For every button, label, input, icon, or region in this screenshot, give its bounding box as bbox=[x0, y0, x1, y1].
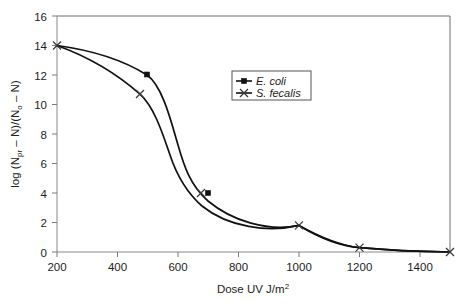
x-tick-label-200: 200 bbox=[47, 261, 66, 273]
legend-label-s-fecalis: S. fecalis bbox=[256, 87, 301, 99]
figure-container: 0 2 4 6 8 10 12 14 16 200 400 600 800 10… bbox=[0, 0, 472, 304]
x-tick-label-400: 400 bbox=[108, 261, 127, 273]
legend-marker-e-coli-dot bbox=[242, 79, 247, 84]
y-tick-label-12: 12 bbox=[34, 70, 47, 82]
y-tick-label-16: 16 bbox=[34, 11, 47, 23]
y-axis-tick-labels: 0 2 4 6 8 10 12 14 16 bbox=[34, 11, 47, 259]
data-point-e-coli-700 bbox=[206, 191, 211, 196]
y-tick-label-14: 14 bbox=[34, 40, 47, 52]
y-axis-ticks bbox=[52, 16, 57, 252]
x-tick-label-1200: 1200 bbox=[347, 261, 373, 273]
y-axis-title: log (Npr – N)/(No – N) bbox=[9, 80, 24, 188]
y-axis-title-log: log (N bbox=[9, 157, 21, 188]
x-tick-label-1400: 1400 bbox=[407, 261, 433, 273]
series-markers-e-coli bbox=[145, 72, 211, 196]
y-axis-title-tail: – N) bbox=[9, 80, 21, 105]
y-tick-label-0: 0 bbox=[41, 247, 47, 259]
x-tick-label-1000: 1000 bbox=[286, 261, 312, 273]
y-tick-label-10: 10 bbox=[34, 99, 47, 111]
x-axis-tick-labels: 200 400 600 800 1000 1200 1400 bbox=[47, 261, 432, 273]
x-axis-title: Dose UV J/m2 bbox=[217, 282, 290, 295]
data-point-s-fecalis-700 bbox=[197, 189, 205, 197]
y-tick-label-4: 4 bbox=[41, 188, 48, 200]
uv-dose-survival-chart: 0 2 4 6 8 10 12 14 16 200 400 600 800 10… bbox=[0, 0, 472, 304]
x-axis-ticks bbox=[57, 252, 420, 257]
legend-label-e-coli: E. coli bbox=[256, 75, 287, 87]
y-tick-label-6: 6 bbox=[41, 158, 47, 170]
y-axis-title-mid: – N)/(N bbox=[9, 110, 21, 150]
x-tick-label-600: 600 bbox=[168, 261, 187, 273]
x-axis-title-main: Dose UV J/m bbox=[217, 283, 285, 295]
data-point-s-fecalis-500 bbox=[136, 90, 144, 98]
chart-legend[interactable]: E. coli S. fecalis bbox=[232, 71, 311, 100]
data-point-e-coli-500 bbox=[145, 72, 150, 77]
y-tick-label-2: 2 bbox=[41, 217, 47, 229]
x-tick-label-800: 800 bbox=[229, 261, 248, 273]
y-tick-label-8: 8 bbox=[41, 129, 47, 141]
x-axis-title-superscript: 2 bbox=[285, 282, 290, 291]
plot-frame bbox=[57, 16, 450, 252]
